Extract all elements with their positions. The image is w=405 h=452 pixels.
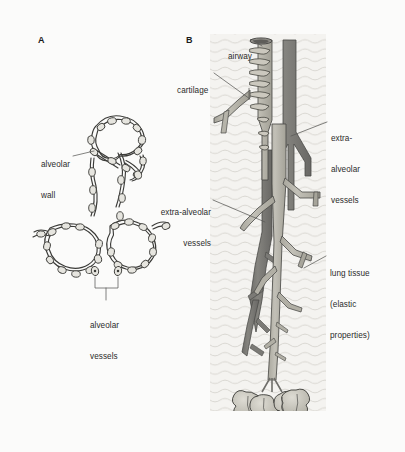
label-extra-alveolar-vessels-left: extra-alveolar vessels (140, 188, 211, 270)
label-alveolar-vessels: alveolar vessels (90, 301, 119, 383)
label-alveolar-wall-line-1: alveolar (41, 160, 70, 170)
label-lung-tissue-line-2: (elastic (330, 300, 370, 310)
label-extra-alveolar-right-line-1: extra- (331, 134, 360, 144)
label-alveolar-wall-line-2: wall (41, 191, 70, 201)
label-extra-alveolar-vessels-right: extra- alveolar vessels (331, 114, 360, 226)
label-extra-alveolar-left-line-1: extra-alveolar (140, 208, 211, 218)
label-airway-line-1: airway (228, 52, 252, 62)
label-lung-tissue-line-3: properties) (330, 331, 370, 341)
label-airway: airway (228, 32, 252, 83)
label-cartilage-line-1: cartilage (177, 86, 208, 96)
label-lung-tissue-line-1: lung tissue (330, 269, 370, 279)
bracket-alveolar-vessels (95, 277, 118, 288)
label-extra-alveolar-left-line-2: vessels (140, 239, 211, 249)
label-alveolar-vessels-line-2: vessels (90, 352, 119, 362)
panel-letter-a: A (38, 35, 45, 45)
label-alveolar-wall: alveolar wall (41, 140, 70, 222)
label-alveolar-vessels-line-1: alveolar (90, 321, 119, 331)
lung-anatomy-figure: A B alveolar wall alveolar vessels airwa… (0, 0, 405, 452)
label-lung-tissue: lung tissue (elastic properties) (330, 249, 370, 361)
label-cartilage: cartilage (177, 66, 208, 117)
panel-letter-b: B (186, 35, 193, 45)
label-extra-alveolar-right-line-3: vessels (331, 196, 360, 206)
label-extra-alveolar-right-line-2: alveolar (331, 165, 360, 175)
